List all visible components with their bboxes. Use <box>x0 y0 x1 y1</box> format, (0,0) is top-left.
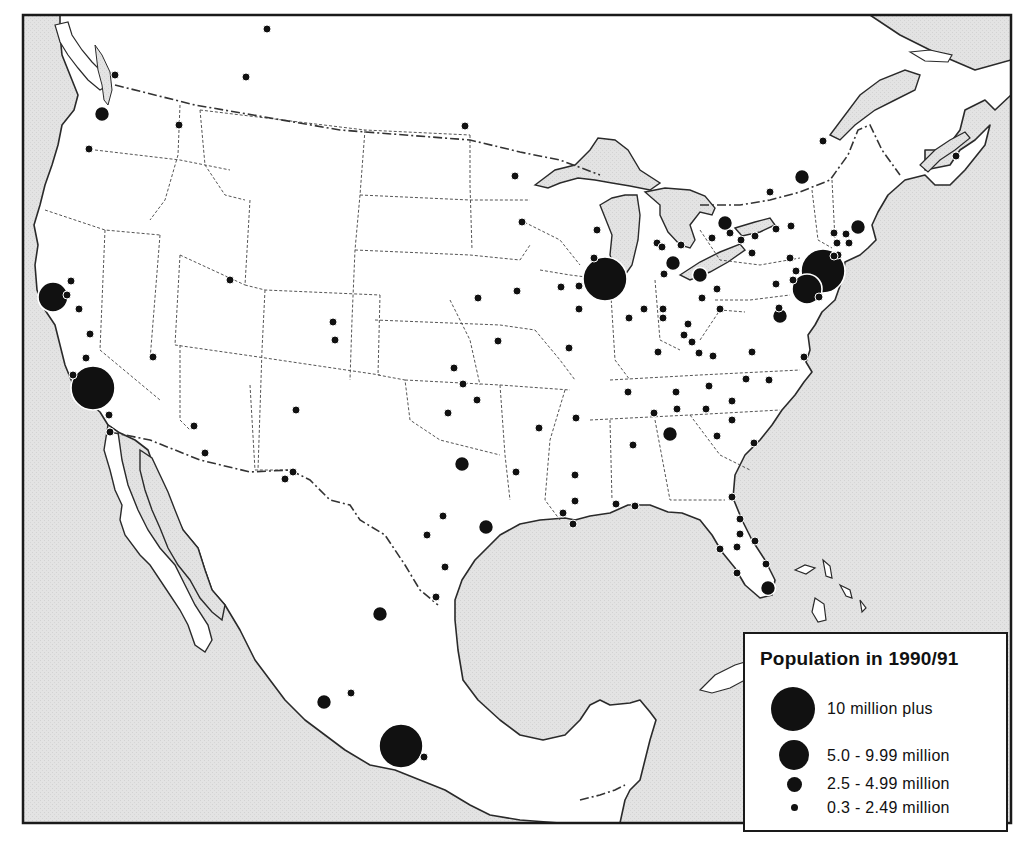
city-marker-s <box>787 222 795 230</box>
city-marker-s <box>625 314 633 322</box>
city-marker-s <box>226 276 234 284</box>
city-marker-s <box>572 414 580 422</box>
city-marker-s <box>263 25 271 33</box>
city-marker-s <box>952 152 960 160</box>
city-marker-s <box>612 500 620 508</box>
city-marker-s <box>819 137 827 145</box>
city-marker-m <box>455 457 470 472</box>
city-marker-s <box>660 270 668 278</box>
city-marker-m <box>373 607 388 622</box>
city-marker-s <box>709 352 717 360</box>
city-marker-s <box>748 348 756 356</box>
city-marker-s <box>728 493 736 501</box>
city-marker-s <box>751 537 759 545</box>
legend-circle-s-icon <box>791 804 798 811</box>
city-marker-s <box>629 441 637 449</box>
city-marker-s <box>765 376 773 384</box>
city-marker-s <box>557 283 565 291</box>
city-marker-s <box>593 226 601 234</box>
city-marker-s <box>775 304 783 312</box>
city-marker-s <box>75 305 83 313</box>
city-marker-s <box>786 254 794 262</box>
city-marker-s <box>423 531 431 539</box>
city-marker-s <box>659 305 667 313</box>
legend-label: 0.3 - 2.49 million <box>827 799 950 817</box>
city-marker-s <box>111 71 119 79</box>
legend: Population in 1990/91 10 million plus 5.… <box>743 632 1008 832</box>
city-marker-s <box>461 122 469 130</box>
city-marker-s <box>444 409 452 417</box>
city-marker-s <box>571 497 579 505</box>
city-marker-s <box>680 331 688 339</box>
city-marker-s <box>673 405 681 413</box>
city-marker-s <box>590 254 598 262</box>
city-marker-s <box>624 388 632 396</box>
city-marker-s <box>845 239 853 247</box>
legend-row-5m: 5.0 - 9.99 million <box>745 740 1006 770</box>
city-marker-m <box>795 170 810 185</box>
city-marker-s <box>571 471 579 479</box>
city-marker-s <box>569 520 577 528</box>
city-marker-s <box>716 305 724 313</box>
city-marker-s <box>650 409 658 417</box>
city-marker-s <box>494 337 502 345</box>
city-marker-s <box>736 530 744 538</box>
legend-label: 10 million plus <box>827 700 933 718</box>
city-marker-s <box>684 320 692 328</box>
city-marker-m <box>761 581 776 596</box>
city-marker-s <box>830 229 838 237</box>
legend-title: Population in 1990/91 <box>760 648 958 670</box>
city-marker-s <box>631 502 639 510</box>
city-marker-m <box>95 107 110 122</box>
city-marker-s <box>439 512 447 520</box>
city-marker-s <box>511 172 519 180</box>
city-marker-s <box>716 545 724 553</box>
city-marker-s <box>106 428 114 436</box>
city-marker-s <box>713 432 721 440</box>
legend-row-0-3m: 0.3 - 2.49 million <box>745 798 1006 828</box>
city-marker-s <box>733 543 741 551</box>
city-marker-s <box>347 689 355 697</box>
city-marker-s <box>750 439 758 447</box>
city-marker-s <box>830 252 838 260</box>
city-marker-s <box>751 232 759 240</box>
city-marker-s <box>772 280 780 288</box>
legend-label: 2.5 - 4.99 million <box>827 775 950 793</box>
city-marker-s <box>815 293 823 301</box>
city-marker-s <box>329 318 337 326</box>
city-marker-s <box>705 382 713 390</box>
city-marker-s <box>69 371 77 379</box>
city-marker-s <box>688 338 696 346</box>
city-marker-s <box>672 388 680 396</box>
city-marker-m <box>317 695 332 710</box>
city-marker-s <box>513 287 521 295</box>
city-marker-m <box>663 427 678 442</box>
city-marker-s <box>726 229 734 237</box>
city-marker-s <box>677 241 685 249</box>
city-marker-s <box>842 230 850 238</box>
legend-label: 5.0 - 9.99 million <box>827 747 950 765</box>
city-marker-s <box>698 294 706 302</box>
legend-circle-xl-icon <box>771 687 815 731</box>
city-marker-s <box>105 411 113 419</box>
city-marker-s <box>575 282 583 290</box>
city-marker-s <box>281 475 289 483</box>
city-marker-s <box>654 348 662 356</box>
city-marker-s <box>242 73 250 81</box>
city-marker-m <box>666 256 681 271</box>
city-marker-s <box>175 121 183 129</box>
city-marker-m <box>479 520 494 535</box>
city-marker-s <box>512 468 520 476</box>
legend-row-10m-plus: 10 million plus <box>745 686 1006 716</box>
city-marker-xl <box>71 366 115 410</box>
city-marker-s <box>190 422 198 430</box>
city-marker-s <box>535 424 543 432</box>
city-marker-s <box>728 416 736 424</box>
city-marker-s <box>736 515 744 523</box>
city-marker-s <box>63 291 71 299</box>
city-marker-s <box>748 249 756 257</box>
city-marker-s <box>766 188 774 196</box>
city-marker-s <box>441 563 449 571</box>
city-marker-s <box>86 330 94 338</box>
city-marker-s <box>450 364 458 372</box>
